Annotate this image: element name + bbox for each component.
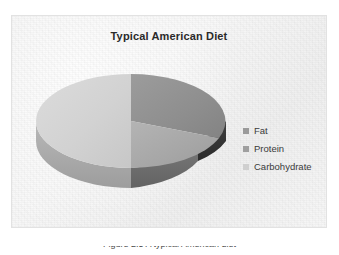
figure-caption-cropped: Figure 2.5 A typical American diet xyxy=(0,246,339,255)
legend-item-fat[interactable]: Fat xyxy=(243,122,312,140)
legend-swatch-fat xyxy=(243,128,249,134)
legend-item-protein[interactable]: Protein xyxy=(243,140,312,158)
legend-label-protein: Protein xyxy=(254,144,284,154)
legend-swatch-protein xyxy=(243,146,249,152)
figure-container: Typical American Diet xyxy=(0,0,339,255)
legend-swatch-carbohydrate xyxy=(243,164,249,170)
chart-title: Typical American Diet xyxy=(12,30,326,42)
legend-label-fat: Fat xyxy=(254,126,268,136)
figure-caption-text: Figure 2.5 A typical American diet xyxy=(0,246,339,249)
chart-legend: Fat Protein Carbohydrate xyxy=(243,122,312,176)
legend-item-carbohydrate[interactable]: Carbohydrate xyxy=(243,158,312,176)
chart-frame: Typical American Diet xyxy=(11,15,327,228)
pie-chart xyxy=(31,64,231,199)
legend-label-carbohydrate: Carbohydrate xyxy=(254,162,312,172)
pie-chart-svg xyxy=(31,64,231,199)
